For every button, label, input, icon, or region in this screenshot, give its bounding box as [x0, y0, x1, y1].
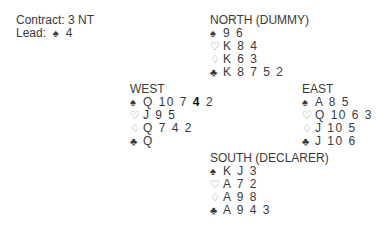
- heart-cards: J 9 5: [143, 108, 177, 122]
- east-hand: EAST ♠A 8 5 ♡Q 10 6 3 ♢J 10 5 ♣J 10 6: [302, 83, 373, 148]
- club-cards: A 9 4 3: [223, 203, 271, 217]
- spade-cards: K J 3: [223, 164, 258, 178]
- spade-icon: ♠: [130, 96, 143, 109]
- north-hand: NORTH (DUMMY) ♠9 6 ♡K 8 4 ♢K 6 3 ♣K 8 7 …: [210, 14, 309, 79]
- club-icon: ♣: [210, 204, 223, 217]
- heart-icon: ♡: [130, 109, 143, 122]
- club-cards: Q: [143, 134, 154, 148]
- diamond-icon: ♢: [302, 122, 315, 135]
- heart-icon: ♡: [210, 40, 223, 53]
- spade-icon: ♠: [210, 27, 223, 40]
- spade-cards-before: Q 10 7: [143, 95, 193, 109]
- heart-cards: Q 10 6 3: [315, 108, 373, 122]
- spade-cards-after: 2: [201, 95, 214, 109]
- heart-cards: A 7 2: [223, 177, 258, 191]
- club-cards: J 10 6: [315, 134, 357, 148]
- spade-icon: ♠: [302, 96, 315, 109]
- diamond-icon: ♢: [210, 53, 223, 66]
- clubs-row: ♣K 8 7 5 2: [210, 66, 309, 79]
- west-hand: WEST ♠Q 10 7 4 2 ♡J 9 5 ♢Q 7 4 2 ♣Q: [130, 83, 214, 148]
- contract-info: Contract: 3 NT Lead: ♠4: [16, 14, 94, 40]
- diamond-cards: Q 7 4 2: [143, 121, 193, 135]
- club-cards: K 8 7 5 2: [223, 65, 285, 79]
- spade-cards: A 8 5: [315, 95, 350, 109]
- clubs-row: ♣J 10 6: [302, 135, 373, 148]
- club-icon: ♣: [210, 66, 223, 79]
- diamond-cards: K 6 3: [223, 52, 259, 66]
- diamond-icon: ♢: [130, 122, 143, 135]
- lead-line: Lead: ♠4: [16, 27, 94, 40]
- diamond-icon: ♢: [210, 191, 223, 204]
- lead-label: Lead:: [16, 26, 46, 40]
- diamond-cards: J 10 5: [315, 121, 357, 135]
- spade-icon: ♠: [210, 165, 223, 178]
- heart-icon: ♡: [302, 109, 315, 122]
- lead-card: 4: [66, 26, 73, 40]
- diamond-cards: A 9 8: [223, 190, 258, 204]
- clubs-row: ♣A 9 4 3: [210, 204, 329, 217]
- contract-value: 3 NT: [68, 13, 94, 27]
- south-hand: SOUTH (DECLARER) ♠K J 3 ♡A 7 2 ♢A 9 8 ♣A…: [210, 152, 329, 217]
- club-icon: ♣: [302, 135, 315, 148]
- clubs-row: ♣Q: [130, 135, 214, 148]
- spade-cards: Q 10 7 4 2: [143, 95, 214, 109]
- heart-icon: ♡: [210, 178, 223, 191]
- lead-card-highlight: 4: [193, 95, 201, 109]
- heart-cards: K 8 4: [223, 39, 259, 53]
- spade-cards: 9 6: [223, 26, 244, 40]
- contract-label: Contract:: [16, 13, 65, 27]
- spade-icon: ♠: [53, 27, 66, 40]
- club-icon: ♣: [130, 135, 143, 148]
